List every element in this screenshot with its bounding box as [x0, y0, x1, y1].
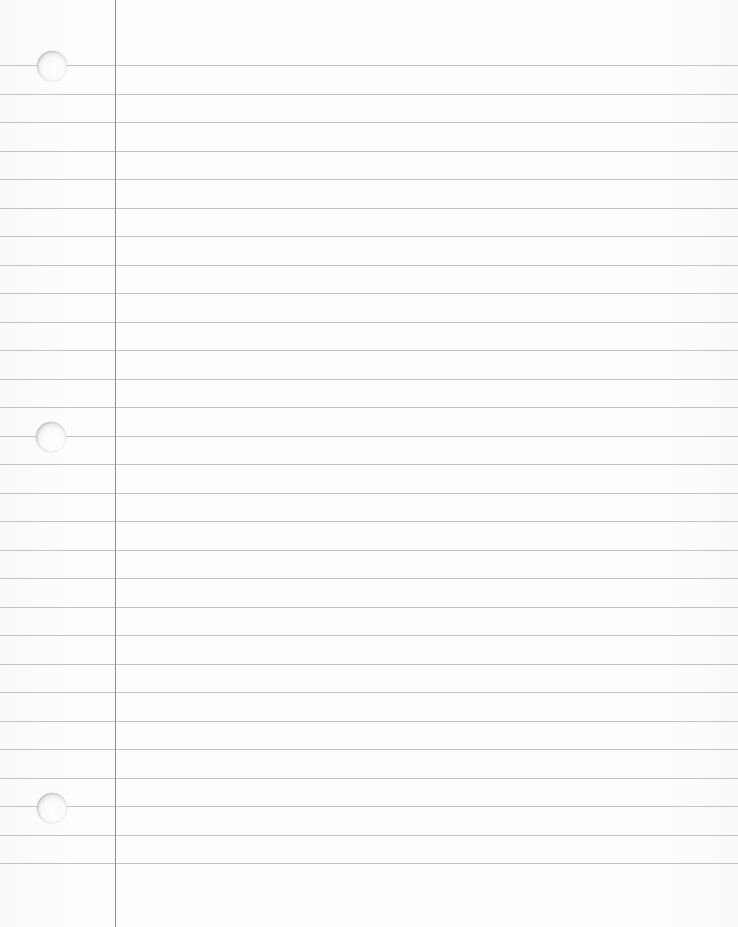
ruled-line: [0, 635, 738, 636]
ruled-line: [0, 464, 738, 465]
ruled-line: [0, 322, 738, 323]
ruled-line: [0, 664, 738, 665]
ruled-line: [0, 835, 738, 836]
ruled-line: [0, 293, 738, 294]
ruled-line: [0, 179, 738, 180]
ruled-line: [0, 65, 738, 66]
ruled-line: [0, 778, 738, 779]
ruled-line: [0, 236, 738, 237]
binder-hole: [37, 793, 67, 823]
ruled-line: [0, 493, 738, 494]
notebook-paper: [0, 0, 738, 927]
ruled-line: [0, 607, 738, 608]
ruled-line: [0, 407, 738, 408]
margin-line: [115, 0, 116, 927]
ruled-line: [0, 578, 738, 579]
ruled-line: [0, 94, 738, 95]
ruled-line: [0, 436, 738, 437]
ruled-line: [0, 806, 738, 807]
ruled-line: [0, 692, 738, 693]
binder-hole: [37, 51, 67, 81]
ruled-line: [0, 265, 738, 266]
binder-hole: [36, 422, 66, 452]
ruled-line: [0, 379, 738, 380]
ruled-line: [0, 863, 738, 864]
ruled-line: [0, 208, 738, 209]
ruled-line: [0, 749, 738, 750]
ruled-line: [0, 521, 738, 522]
ruled-line: [0, 151, 738, 152]
ruled-line: [0, 550, 738, 551]
ruled-line: [0, 350, 738, 351]
ruled-line: [0, 122, 738, 123]
ruled-line: [0, 721, 738, 722]
